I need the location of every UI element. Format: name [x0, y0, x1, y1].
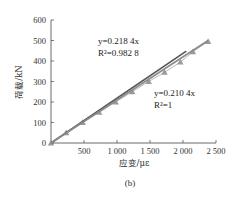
x-tick-label: 2 500 [206, 146, 225, 156]
y-tick-label: 0 [42, 138, 46, 148]
x-tick-label: 2 000 [173, 146, 192, 156]
x-tick-label: 1 500 [140, 146, 159, 156]
y-tick-label: 400 [33, 56, 46, 66]
y-tick-label: 100 [33, 118, 46, 128]
fit2-r2: R²=1 [154, 100, 172, 110]
y-tick-label: 600 [33, 15, 46, 25]
fit1-equation: y=0.218 4x [98, 36, 140, 46]
x-axis-title: 应变/με [119, 158, 150, 168]
y-tick-label: 200 [33, 97, 46, 107]
fit1-r2: R²=0.982 8 [98, 48, 139, 58]
figure-caption: (b) [125, 178, 136, 188]
x-tick-label: 500 [78, 146, 91, 156]
fit2-equation: y=0.210 4x [154, 88, 196, 98]
load-strain-chart: 5001 0001 5002 0002 50001002003004005006… [0, 0, 237, 201]
y-tick-label: 500 [33, 36, 46, 46]
y-axis-title: 荷载/kN [14, 65, 24, 99]
y-tick-label: 300 [33, 77, 46, 87]
x-tick-label: 1 000 [107, 146, 126, 156]
